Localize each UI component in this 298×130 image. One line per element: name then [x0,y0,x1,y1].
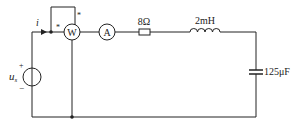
resistor-icon [139,29,150,35]
source-plus: + [19,61,24,70]
ammeter-label: A [103,27,111,38]
wattmeter-marker-current: * [56,23,60,32]
wattmeter-label: W [67,27,77,38]
junction-dot [49,30,53,34]
wattmeter-marker-voltage: * [77,11,81,20]
resistor-label: 8Ω [138,16,150,27]
source-label: us [9,70,18,84]
inductor-label: 2mH [195,15,215,26]
source-minus: − [19,83,24,93]
inductor-icon [190,29,220,32]
current-label: i [36,17,39,28]
capacitor-label: 125μF [264,66,290,77]
circuit-diagram: i * * W A 8Ω 2mH 125μF + − us [0,0,298,130]
junction-dot-bottom [70,115,74,119]
current-arrow-icon [41,29,47,35]
